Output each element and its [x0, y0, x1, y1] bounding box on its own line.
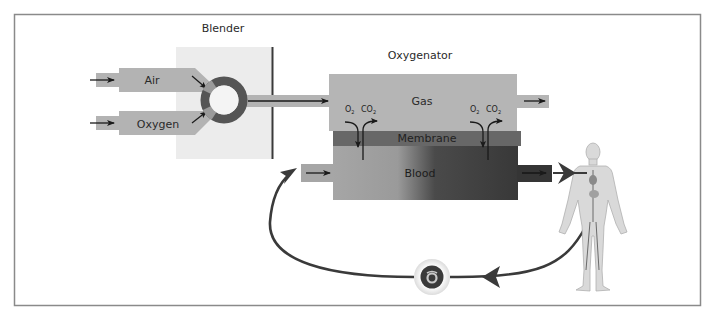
blender-label: Blender — [202, 23, 245, 34]
ecmo-diagram: Blender Oxygenator Air Oxygen Gas Membra… — [0, 0, 712, 313]
gas-label: Gas — [412, 96, 433, 107]
membrane-label: Membrane — [398, 133, 457, 144]
o2-label-right: O2 — [470, 106, 479, 115]
gas-supply-pipe — [240, 95, 332, 107]
blood-label: Blood — [404, 168, 435, 179]
oxygenator-label: Oxygenator — [388, 50, 453, 61]
air-label: Air — [144, 75, 159, 86]
patient-figure — [559, 143, 627, 291]
co2-label-left: CO2 — [361, 106, 376, 115]
co2-label-right: CO2 — [486, 106, 501, 115]
o2-label-left: O2 — [345, 106, 354, 115]
oxygen-label: Oxygen — [137, 119, 179, 130]
blood-pump — [414, 259, 450, 295]
blender-mixing-chamber — [205, 81, 243, 119]
oxygenator-gas-chamber — [329, 74, 549, 131]
flow-arrowhead-pump — [482, 266, 500, 288]
